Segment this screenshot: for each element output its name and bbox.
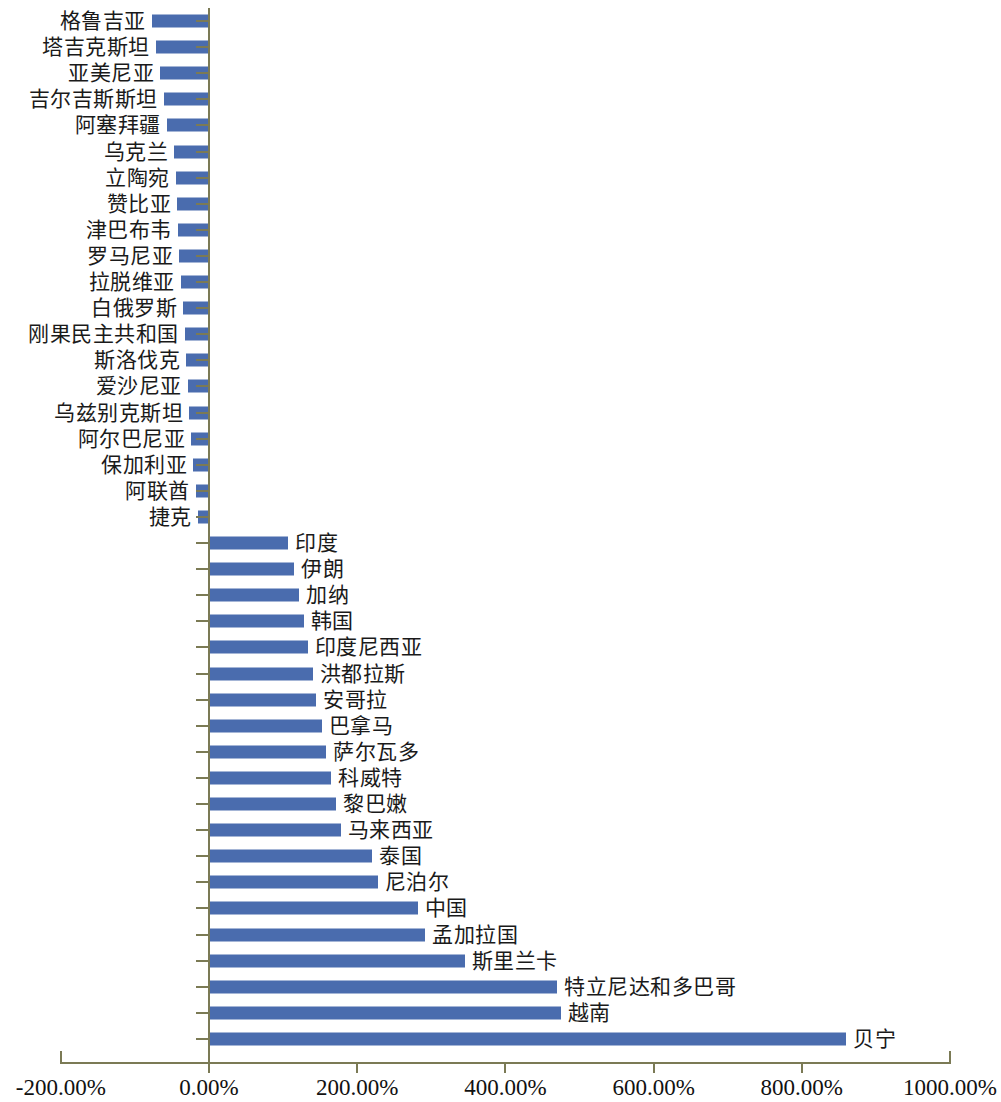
bar[interactable] xyxy=(209,615,304,628)
bar-category-label: 加纳 xyxy=(306,585,349,606)
bar[interactable] xyxy=(209,693,316,706)
bar-row: 洪都拉斯 xyxy=(0,661,1001,687)
bar[interactable] xyxy=(209,537,288,550)
bar-row: 印度尼西亚 xyxy=(0,634,1001,660)
category-tick xyxy=(196,98,208,100)
bar[interactable] xyxy=(209,850,372,863)
bar-row: 格鲁吉亚 xyxy=(0,8,1001,34)
category-tick xyxy=(196,777,208,779)
x-axis-tick-label: 200.00% xyxy=(316,1076,398,1099)
bar-row: 萨尔瓦多 xyxy=(0,739,1001,765)
bar[interactable] xyxy=(209,798,336,811)
bar-row: 伊朗 xyxy=(0,556,1001,582)
category-tick xyxy=(196,986,208,988)
bar[interactable] xyxy=(209,824,341,837)
category-tick xyxy=(196,542,208,544)
bar-category-label: 斯洛伐克 xyxy=(94,350,180,371)
bar-category-label: 特立尼达和多巴哥 xyxy=(564,976,736,997)
category-tick xyxy=(196,803,208,805)
bar-row: 泰国 xyxy=(0,843,1001,869)
bar-category-label: 巴拿马 xyxy=(329,715,394,736)
bar[interactable] xyxy=(209,667,313,680)
bar-category-label: 刚果民主共和国 xyxy=(28,324,179,345)
bar-category-label: 科威特 xyxy=(338,767,403,788)
bar-category-label: 印度尼西亚 xyxy=(315,637,423,658)
bar[interactable] xyxy=(209,954,465,967)
bar[interactable] xyxy=(209,771,331,784)
category-tick xyxy=(196,359,208,361)
x-axis-tick xyxy=(801,1062,803,1073)
bar-row: 津巴布韦 xyxy=(0,217,1001,243)
bar-row: 拉脱维亚 xyxy=(0,269,1001,295)
bar-row: 韩国 xyxy=(0,608,1001,634)
bar-category-label: 白俄罗斯 xyxy=(91,298,177,319)
bar[interactable] xyxy=(209,1006,561,1019)
bar-category-label: 吉尔吉斯斯坦 xyxy=(29,89,158,110)
bar-row: 斯里兰卡 xyxy=(0,948,1001,974)
bar-category-label: 中国 xyxy=(425,898,468,919)
bar[interactable] xyxy=(209,1032,846,1045)
bar[interactable] xyxy=(209,980,557,993)
bar-category-label: 保加利亚 xyxy=(101,454,187,475)
x-axis-tick-label: 1000.00% xyxy=(903,1076,997,1099)
category-tick xyxy=(196,203,208,205)
category-tick xyxy=(196,620,208,622)
bar-row: 巴拿马 xyxy=(0,713,1001,739)
bar-category-label: 韩国 xyxy=(311,611,354,632)
bar-category-label: 格鲁吉亚 xyxy=(60,11,146,32)
category-tick xyxy=(196,229,208,231)
category-tick xyxy=(196,385,208,387)
bar-row: 越南 xyxy=(0,1000,1001,1026)
bar[interactable] xyxy=(209,876,378,889)
bar[interactable] xyxy=(209,902,418,915)
bar-row: 马来西亚 xyxy=(0,817,1001,843)
category-tick xyxy=(196,699,208,701)
bar-row: 安哥拉 xyxy=(0,687,1001,713)
bar-category-label: 斯里兰卡 xyxy=(472,950,558,971)
bar-row: 孟加拉国 xyxy=(0,922,1001,948)
bar-category-label: 印度 xyxy=(295,533,338,554)
bar-row: 黎巴嫩 xyxy=(0,791,1001,817)
bar[interactable] xyxy=(209,745,326,758)
bar-row: 赞比亚 xyxy=(0,191,1001,217)
bar[interactable] xyxy=(209,563,294,576)
bar-row: 乌兹别克斯坦 xyxy=(0,400,1001,426)
bar-category-label: 伊朗 xyxy=(301,559,344,580)
x-axis-tick-label: 400.00% xyxy=(464,1076,546,1099)
x-axis-tick xyxy=(60,1051,62,1064)
bar[interactable] xyxy=(209,589,299,602)
bar-category-label: 罗马尼亚 xyxy=(87,245,173,266)
category-tick xyxy=(196,281,208,283)
x-axis-tick-label: 0.00% xyxy=(179,1076,238,1099)
bar-row: 贝宁 xyxy=(0,1026,1001,1052)
bar-category-label: 爱沙尼亚 xyxy=(96,376,182,397)
bar-row: 特立尼达和多巴哥 xyxy=(0,974,1001,1000)
x-axis-tick-label: 800.00% xyxy=(761,1076,843,1099)
bar-row: 吉尔吉斯斯坦 xyxy=(0,86,1001,112)
bar-category-label: 越南 xyxy=(568,1002,611,1023)
bar-row: 刚果民主共和国 xyxy=(0,321,1001,347)
bar-row: 亚美尼亚 xyxy=(0,60,1001,86)
bar-category-label: 安哥拉 xyxy=(323,689,388,710)
bar-row: 罗马尼亚 xyxy=(0,243,1001,269)
category-tick xyxy=(196,934,208,936)
category-tick xyxy=(196,881,208,883)
bar-category-label: 拉脱维亚 xyxy=(89,272,175,293)
bar[interactable] xyxy=(209,928,425,941)
bar-category-label: 尼泊尔 xyxy=(385,872,450,893)
category-tick xyxy=(196,20,208,22)
bar[interactable] xyxy=(209,641,308,654)
category-tick xyxy=(196,177,208,179)
x-axis-tick xyxy=(949,1051,951,1064)
category-tick xyxy=(196,72,208,74)
x-axis-tick-label: -200.00% xyxy=(16,1076,106,1099)
x-axis-tick-label: 600.00% xyxy=(612,1076,694,1099)
category-tick xyxy=(196,594,208,596)
bar-category-label: 赞比亚 xyxy=(107,193,172,214)
category-tick xyxy=(196,907,208,909)
category-tick xyxy=(196,960,208,962)
bar[interactable] xyxy=(209,719,322,732)
bar-category-label: 阿尔巴尼亚 xyxy=(78,428,186,449)
category-tick xyxy=(196,829,208,831)
category-tick xyxy=(196,151,208,153)
